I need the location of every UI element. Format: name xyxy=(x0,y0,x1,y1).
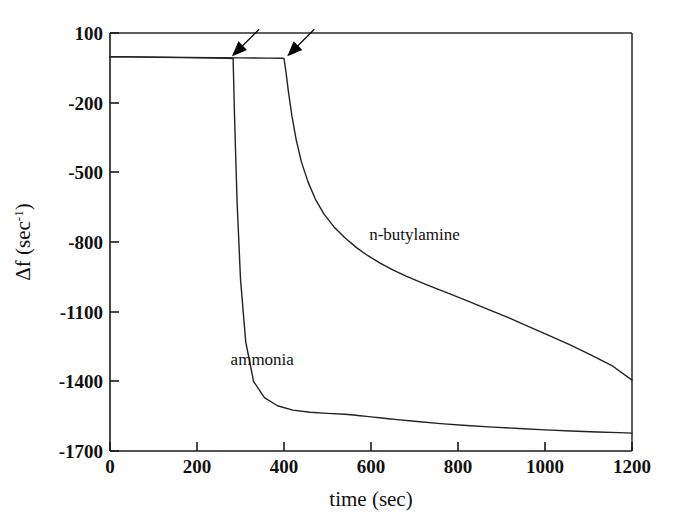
y-axis-title-superscript: -1 xyxy=(11,210,26,221)
y-axis-title-close: ) xyxy=(11,203,35,210)
chart-figure: 100 -200 -500 -800 -1100 -1400 -1700 Δf … xyxy=(0,0,682,524)
y-tick-label-1: -200 xyxy=(68,93,103,114)
y-axis-title-main: Δf (sec xyxy=(11,221,35,281)
x-tick-label-2: 400 xyxy=(270,456,299,477)
x-tick-label-5: 1000 xyxy=(526,456,564,477)
x-axis-title: time (sec) xyxy=(329,487,412,511)
x-tick-label-3: 600 xyxy=(357,456,386,477)
y-tick-label-4: -1100 xyxy=(60,302,103,323)
x-tick-label-6: 1200 xyxy=(613,456,651,477)
y-tick-label-6: -1700 xyxy=(59,441,103,462)
series-label-n-butylamine: n-butylamine xyxy=(369,225,460,244)
series-label-ammonia: ammonia xyxy=(231,350,295,369)
y-tick-label-5: -1400 xyxy=(59,371,103,392)
y-tick-label-0: 100 xyxy=(75,23,104,44)
chart-plot-area: 100 -200 -500 -800 -1100 -1400 -1700 Δf … xyxy=(0,0,682,524)
y-tick-label-3: -800 xyxy=(68,232,103,253)
x-tick-label-0: 0 xyxy=(105,456,115,477)
y-tick-label-2: -500 xyxy=(68,162,103,183)
x-tick-label-1: 200 xyxy=(183,456,212,477)
x-tick-label-4: 800 xyxy=(444,456,473,477)
